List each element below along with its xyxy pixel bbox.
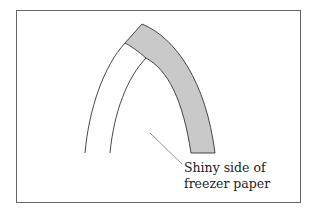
callout-label-line2: freezer paper: [184, 176, 270, 191]
diagram-figure: Shiny side of freezer paper: [0, 0, 320, 211]
callout-label-line1: Shiny side of: [184, 160, 267, 175]
